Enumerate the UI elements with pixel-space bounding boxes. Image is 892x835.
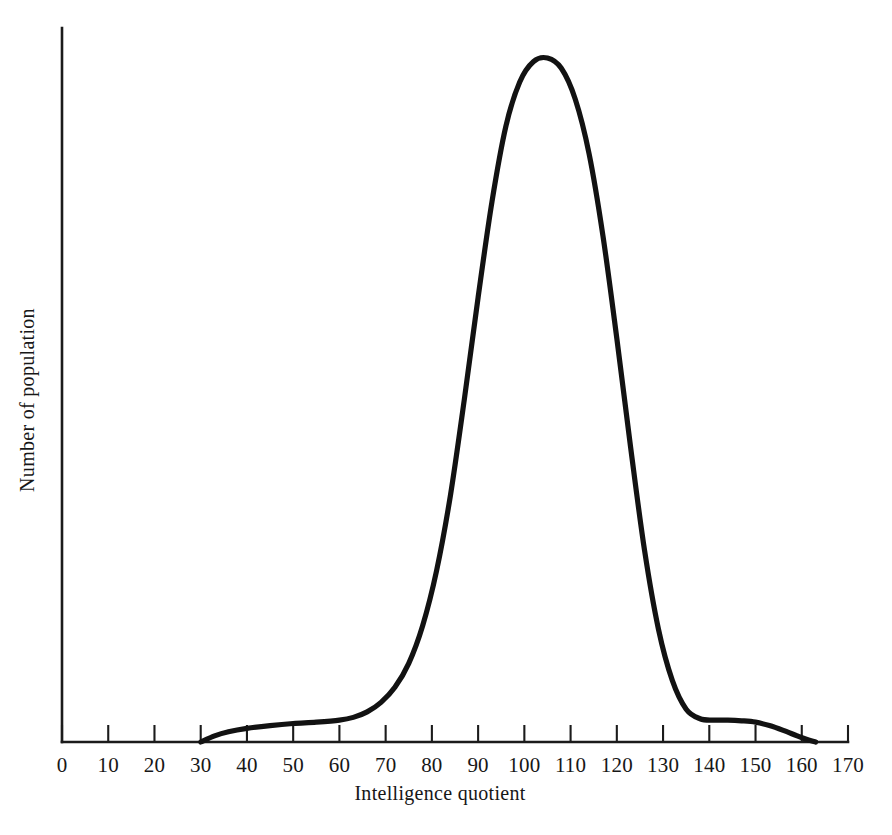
distribution-curve <box>201 57 816 742</box>
chart-plot-area: 0102030405060708090100110120130140150160… <box>0 0 892 835</box>
iq-distribution-chart: 0102030405060708090100110120130140150160… <box>0 0 892 835</box>
x-tick-label-100: 100 <box>508 753 540 777</box>
x-tick-label-10: 10 <box>98 753 119 777</box>
x-tick-label-130: 130 <box>647 753 679 777</box>
x-axis-tick-labels: 0102030405060708090100110120130140150160… <box>57 753 864 777</box>
x-tick-label-120: 120 <box>601 753 633 777</box>
x-tick-label-70: 70 <box>375 753 396 777</box>
x-tick-label-0: 0 <box>57 753 68 777</box>
x-tick-label-110: 110 <box>555 753 586 777</box>
x-tick-label-60: 60 <box>329 753 350 777</box>
x-tick-label-40: 40 <box>236 753 257 777</box>
x-tick-label-50: 50 <box>282 753 303 777</box>
x-tick-label-30: 30 <box>190 753 211 777</box>
x-tick-label-150: 150 <box>739 753 771 777</box>
x-axis-ticks <box>62 725 848 742</box>
x-tick-label-80: 80 <box>421 753 442 777</box>
x-tick-label-160: 160 <box>786 753 818 777</box>
x-tick-label-170: 170 <box>832 753 864 777</box>
y-axis-title: Number of population <box>16 308 39 492</box>
x-tick-label-90: 90 <box>467 753 488 777</box>
x-tick-label-20: 20 <box>144 753 165 777</box>
x-tick-label-140: 140 <box>693 753 725 777</box>
x-axis-title: Intelligence quotient <box>354 782 525 805</box>
